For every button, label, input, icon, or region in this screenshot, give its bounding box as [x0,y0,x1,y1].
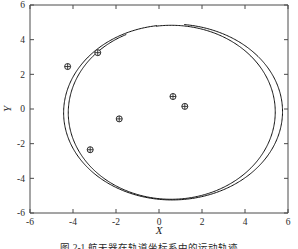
circle-plus-marker-icon [182,103,188,109]
x-tick-label: -2 [112,217,120,227]
x-tick-label: 2 [200,217,205,227]
x-tick-label: -6 [26,217,34,227]
y-tick-label: 0 [20,104,25,114]
x-axis-label: X [155,224,164,236]
x-tick-label: -4 [69,217,77,227]
circle-plus-marker-icon [116,116,122,122]
circle-plus-marker-icon [170,94,176,100]
circle-plus-marker-icon [95,50,101,56]
circle-plus-marker-icon [65,64,71,70]
circle-plus-marker-icon [87,147,93,153]
y-tick-label: -4 [17,174,25,184]
y-tick-label: 4 [20,35,25,45]
y-tick-label: -6 [17,208,25,218]
plot-background [0,0,298,249]
y-tick-label: -2 [17,139,25,149]
x-tick-label: 4 [243,217,248,227]
figure-container: -6-4-20246 -6-4-20246 X Y 图 2-1 航天器在轨道坐标… [0,0,298,249]
figure-caption: 图 2-1 航天器在轨道坐标系中的运动轨迹 [0,243,298,249]
y-tick-label: 6 [20,0,25,10]
orbit-plot: -6-4-20246 -6-4-20246 X Y [0,0,298,249]
x-tick-label: 6 [286,217,291,227]
y-tick-label: 2 [20,70,25,80]
